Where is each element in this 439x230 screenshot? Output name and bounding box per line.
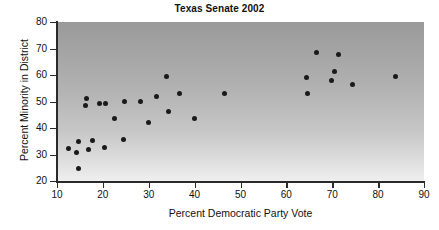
chart-figure: Texas Senate 2002 20304050607080 1020304… [0, 0, 439, 230]
y-tick [50, 128, 56, 129]
x-tick [332, 182, 333, 188]
y-tick [50, 102, 56, 103]
data-point [66, 146, 71, 151]
data-point [164, 74, 169, 79]
data-point [222, 91, 227, 96]
x-tick-label: 90 [409, 190, 439, 200]
x-tick [195, 182, 196, 188]
data-point [76, 166, 81, 171]
data-point [146, 120, 151, 125]
y-tick [50, 155, 56, 156]
x-tick-label: 10 [42, 190, 72, 200]
data-point [86, 147, 91, 152]
data-point [102, 145, 107, 150]
data-point [138, 99, 143, 104]
y-tick [50, 75, 56, 76]
x-tick [241, 182, 242, 188]
x-tick-label: 60 [271, 190, 301, 200]
chart-title: Texas Senate 2002 [0, 3, 439, 14]
x-tick [286, 182, 287, 188]
y-tick [50, 181, 56, 182]
data-point [97, 101, 102, 106]
data-point [122, 99, 127, 104]
y-tick [50, 49, 56, 50]
data-point [336, 52, 341, 57]
data-point [84, 96, 89, 101]
data-point [121, 137, 126, 142]
data-point [154, 94, 159, 99]
y-tick [50, 22, 56, 23]
x-tick-label: 80 [363, 190, 393, 200]
x-tick [57, 182, 58, 188]
y-axis-title: Percent Minority in District [18, 10, 30, 190]
data-point [350, 82, 355, 87]
data-point [305, 91, 310, 96]
data-point [90, 138, 95, 143]
x-tick-label: 70 [317, 190, 347, 200]
x-tick [424, 182, 425, 188]
data-point [74, 150, 79, 155]
data-point [192, 116, 197, 121]
data-point [103, 101, 108, 106]
data-point [314, 50, 319, 55]
data-point [393, 74, 398, 79]
data-point [329, 78, 334, 83]
x-tick-label: 50 [226, 190, 256, 200]
data-point [83, 103, 88, 108]
x-tick-label: 40 [180, 190, 210, 200]
x-tick [103, 182, 104, 188]
plot-area [57, 22, 424, 181]
data-point [177, 91, 182, 96]
scatter-series [57, 22, 424, 181]
data-point [332, 69, 337, 74]
y-axis-line [56, 21, 58, 182]
x-axis-title: Percent Democratic Party Vote [57, 207, 424, 219]
data-point [76, 139, 81, 144]
data-point [112, 116, 117, 121]
x-tick-label: 20 [88, 190, 118, 200]
x-tick [378, 182, 379, 188]
x-tick-label: 30 [134, 190, 164, 200]
x-tick [149, 182, 150, 188]
data-point [166, 109, 171, 114]
data-point [304, 75, 309, 80]
